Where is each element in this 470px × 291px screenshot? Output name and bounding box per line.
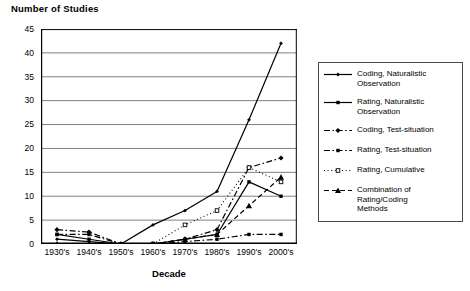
data-point-marker: [335, 128, 340, 133]
y-tick-label: 10: [8, 192, 34, 201]
y-tick-label: 40: [8, 49, 34, 58]
legend-label: Rating, Naturalistic Observation: [357, 97, 458, 116]
y-tick-label: 0: [8, 240, 34, 249]
legend-marker-icon: [323, 125, 353, 136]
y-tick-label: 30: [8, 96, 34, 105]
data-point-marker: [247, 166, 251, 170]
y-tick-label: 15: [8, 168, 34, 177]
x-axis-title: Decade: [41, 268, 297, 279]
data-point-marker: [55, 233, 58, 236]
data-point-marker: [279, 233, 282, 236]
y-tick-label: 20: [8, 144, 34, 153]
y-tick-label: 45: [8, 25, 34, 34]
chart-legend: Coding, Naturalistic ObservationRating, …: [318, 62, 463, 222]
data-point-marker: [336, 149, 339, 152]
data-point-marker: [54, 227, 59, 232]
data-point-marker: [279, 180, 283, 184]
data-point-marker: [215, 238, 218, 241]
data-point-marker: [336, 101, 339, 104]
data-point-marker: [247, 180, 250, 183]
legend-label: Rating, Cumulative: [357, 165, 458, 175]
data-point-marker: [215, 209, 219, 213]
legend-item-5[interactable]: Combination of Rating/Coding Methods: [323, 185, 458, 214]
data-point-marker: [183, 223, 187, 227]
data-point-marker: [247, 118, 251, 122]
legend-marker-icon: [323, 145, 353, 156]
legend-label: Coding, Naturalistic Observation: [357, 69, 458, 88]
legend-label: Combination of Rating/Coding Methods: [357, 185, 458, 214]
data-series-layer: [54, 41, 284, 244]
legend-item-4[interactable]: Rating, Cumulative: [323, 165, 458, 176]
plot-svg: [41, 29, 297, 244]
data-point-marker: [246, 203, 252, 209]
x-tick-label: 2000's: [261, 248, 301, 257]
gridlines: [41, 53, 297, 220]
legend-marker-icon: [323, 165, 353, 176]
series-line: [57, 43, 281, 244]
legend-marker-icon: [323, 97, 353, 108]
legend-item-2[interactable]: Coding, Test-situation: [323, 125, 458, 136]
legend-label: Coding, Test-situation: [357, 125, 458, 135]
data-point-marker: [336, 73, 340, 77]
data-point-marker: [278, 174, 284, 180]
chart-title: Number of Studies: [11, 3, 99, 14]
data-point-marker: [279, 41, 283, 45]
plot-area: [41, 29, 297, 244]
data-point-marker: [279, 195, 282, 198]
legend-marker-icon: [323, 185, 353, 196]
data-point-marker: [87, 238, 90, 241]
y-tick-label: 35: [8, 73, 34, 82]
legend-marker-icon: [323, 69, 353, 80]
series-0: [55, 41, 283, 244]
legend-label: Rating, Test-situation: [357, 145, 458, 155]
data-point-marker: [87, 233, 90, 236]
y-tick-label: 25: [8, 120, 34, 129]
legend-item-1[interactable]: Rating, Naturalistic Observation: [323, 97, 458, 116]
data-point-marker: [336, 169, 340, 173]
y-tick-label: 5: [8, 216, 34, 225]
data-point-marker: [55, 237, 59, 241]
legend-item-3[interactable]: Rating, Test-situation: [323, 145, 458, 156]
legend-item-0[interactable]: Coding, Naturalistic Observation: [323, 69, 458, 88]
chart-figure: Number of Studies 051015202530354045 193…: [0, 0, 470, 291]
data-point-marker: [247, 233, 250, 236]
data-point-marker: [278, 155, 283, 160]
